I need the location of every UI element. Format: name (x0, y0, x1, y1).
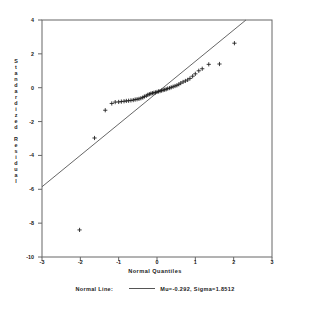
data-point-plus-marker (217, 62, 221, 66)
y-tick-label: 2 (18, 51, 34, 57)
data-point-plus-marker (191, 74, 195, 78)
y-tick-label: -6 (18, 186, 34, 192)
data-point-markers (77, 41, 236, 232)
data-point-plus-marker (200, 67, 204, 71)
data-point-plus-marker (137, 97, 141, 101)
data-point-plus-marker (92, 136, 96, 140)
x-tick-label: -1 (109, 259, 129, 265)
chart-legend: Normal Line:Mu=-0.292, Sigma=1.8512 (0, 286, 310, 292)
x-tick-label: 2 (224, 259, 244, 265)
data-point-plus-marker (77, 228, 81, 232)
x-tick-label: 1 (185, 259, 205, 265)
data-point-plus-marker (103, 108, 107, 112)
normal-reference-line (42, 20, 246, 187)
x-tick-label: -2 (70, 259, 90, 265)
data-point-plus-marker (207, 62, 211, 66)
x-tick-label: 3 (262, 259, 282, 265)
x-axis-title: Normal Quantiles (0, 268, 310, 274)
y-tick-label: -4 (18, 152, 34, 158)
y-tick-label: 0 (18, 85, 34, 91)
data-point-plus-marker (232, 41, 236, 45)
data-point-plus-marker (193, 72, 197, 76)
legend-value: Mu=-0.292, Sigma=1.8512 (160, 286, 234, 292)
data-point-plus-marker (173, 84, 177, 88)
x-tick-label: -3 (32, 259, 52, 265)
y-tick-label: -2 (18, 119, 34, 125)
y-axis-title-char: l (9, 178, 23, 184)
data-point-plus-marker (197, 69, 201, 73)
y-tick-label: -10 (18, 254, 34, 260)
plot-frame (42, 20, 272, 257)
legend-line-swatch (129, 288, 155, 289)
data-point-plus-marker (183, 79, 187, 83)
x-tick-label: 0 (147, 259, 167, 265)
data-point-plus-marker (175, 83, 179, 87)
qq-plot-figure: Standardized Residual Normal Quantiles -… (0, 0, 310, 311)
y-tick-label: -8 (18, 220, 34, 226)
data-point-plus-marker (131, 98, 135, 102)
y-axis-ticks (38, 20, 42, 257)
y-tick-label: 4 (18, 17, 34, 23)
legend-label: Normal Line: (75, 286, 113, 292)
